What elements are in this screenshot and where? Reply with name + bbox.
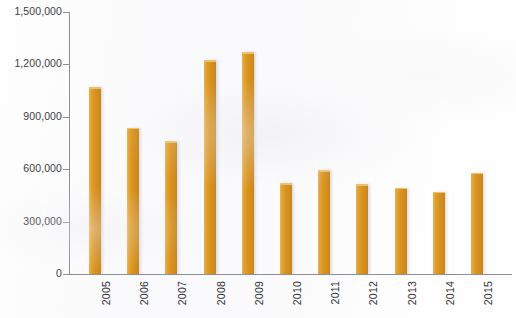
x-axis-tick-label: 2009 — [253, 281, 265, 305]
y-axis-tick-label: 300,000 — [4, 215, 62, 227]
y-axis-labels: 0300,000600,000900,0001,200,0001,500,000 — [0, 0, 62, 318]
y-axis-tick-label: 600,000 — [4, 162, 62, 174]
y-axis-tick — [63, 117, 70, 118]
x-axis-tick-label: 2015 — [482, 281, 494, 305]
x-axis-tick-label: 2012 — [367, 281, 379, 305]
bar — [204, 60, 216, 274]
x-axis-tick-label: 2011 — [329, 281, 341, 304]
y-axis-tick — [63, 222, 70, 223]
bar — [89, 87, 101, 274]
y-axis-tick-label: 900,000 — [4, 110, 62, 122]
x-axis-tick-label: 2014 — [444, 281, 456, 305]
y-axis-tick — [63, 274, 70, 275]
bar — [471, 173, 483, 274]
y-axis-tick-label: 1,200,000 — [4, 57, 62, 69]
bar — [318, 170, 330, 274]
x-axis-tick-label: 2007 — [176, 281, 188, 305]
x-axis-tick-label: 2008 — [215, 281, 227, 305]
bar — [433, 192, 445, 274]
y-axis-tick — [63, 12, 70, 13]
x-axis-line — [69, 274, 512, 275]
x-axis-tick-label: 2005 — [100, 281, 112, 305]
chart-page: 0300,000600,000900,0001,200,0001,500,000… — [0, 0, 516, 318]
x-axis-tick-label: 2010 — [291, 281, 303, 305]
bar — [242, 52, 254, 274]
y-axis-tick-label: 0 — [4, 267, 62, 279]
bar — [165, 141, 177, 274]
bar — [395, 188, 407, 274]
y-axis-tick — [63, 169, 70, 170]
cropped-chart-title — [96, 0, 346, 6]
x-axis-tick-label: 2006 — [138, 281, 150, 305]
y-axis-tick — [63, 64, 70, 65]
bar — [356, 184, 368, 274]
bar — [127, 128, 139, 274]
y-axis-tick-label: 1,500,000 — [4, 5, 62, 17]
x-axis-tick-label: 2013 — [406, 281, 418, 305]
bar — [280, 183, 292, 274]
y-axis-line — [69, 12, 70, 275]
bar-chart-plot-area: 0300,000600,000900,0001,200,0001,500,000… — [0, 0, 516, 318]
